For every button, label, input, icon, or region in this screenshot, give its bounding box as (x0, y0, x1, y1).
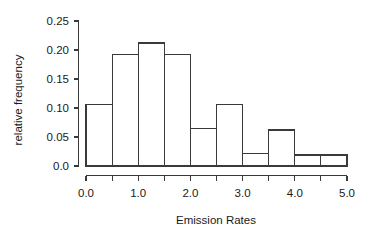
y-tick-label: 0.05 (47, 131, 69, 143)
histogram-bar (86, 105, 112, 166)
y-axis-ticks (74, 21, 79, 166)
y-tick-label: 0.15 (47, 73, 69, 85)
histogram-bar (217, 105, 243, 166)
x-tick-label: 3.0 (235, 187, 251, 199)
x-axis-title: Emission Rates (176, 214, 256, 226)
histogram-figure: 0.00.050.100.150.200.25 0.01.02.03.04.05… (0, 0, 369, 239)
y-tick-label: 0.25 (47, 15, 69, 27)
histogram-bar (112, 55, 138, 166)
x-tick-label: 5.0 (339, 187, 355, 199)
x-tick-label: 0.0 (78, 187, 94, 199)
histogram-plot: 0.00.050.100.150.200.25 0.01.02.03.04.05… (0, 0, 369, 239)
x-tick-label: 1.0 (130, 187, 146, 199)
x-axis-ticks (86, 176, 347, 181)
histogram-bar (243, 154, 269, 166)
histogram-bar (321, 155, 347, 166)
histogram-bar (190, 129, 216, 166)
bars-group (86, 43, 347, 166)
x-axis-tick-labels: 0.01.02.03.04.05.0 (78, 187, 355, 199)
x-tick-label: 2.0 (182, 187, 198, 199)
y-axis-title: relative frequency (12, 54, 24, 145)
x-tick-label: 4.0 (287, 187, 303, 199)
histogram-bar (295, 155, 321, 166)
y-axis-tick-labels: 0.00.050.100.150.200.25 (47, 15, 69, 172)
histogram-bar (164, 55, 190, 166)
y-tick-label: 0.10 (47, 102, 69, 114)
y-tick-label: 0.0 (53, 160, 69, 172)
histogram-bar (269, 130, 295, 166)
histogram-bar (138, 43, 164, 166)
y-tick-label: 0.20 (47, 44, 69, 56)
